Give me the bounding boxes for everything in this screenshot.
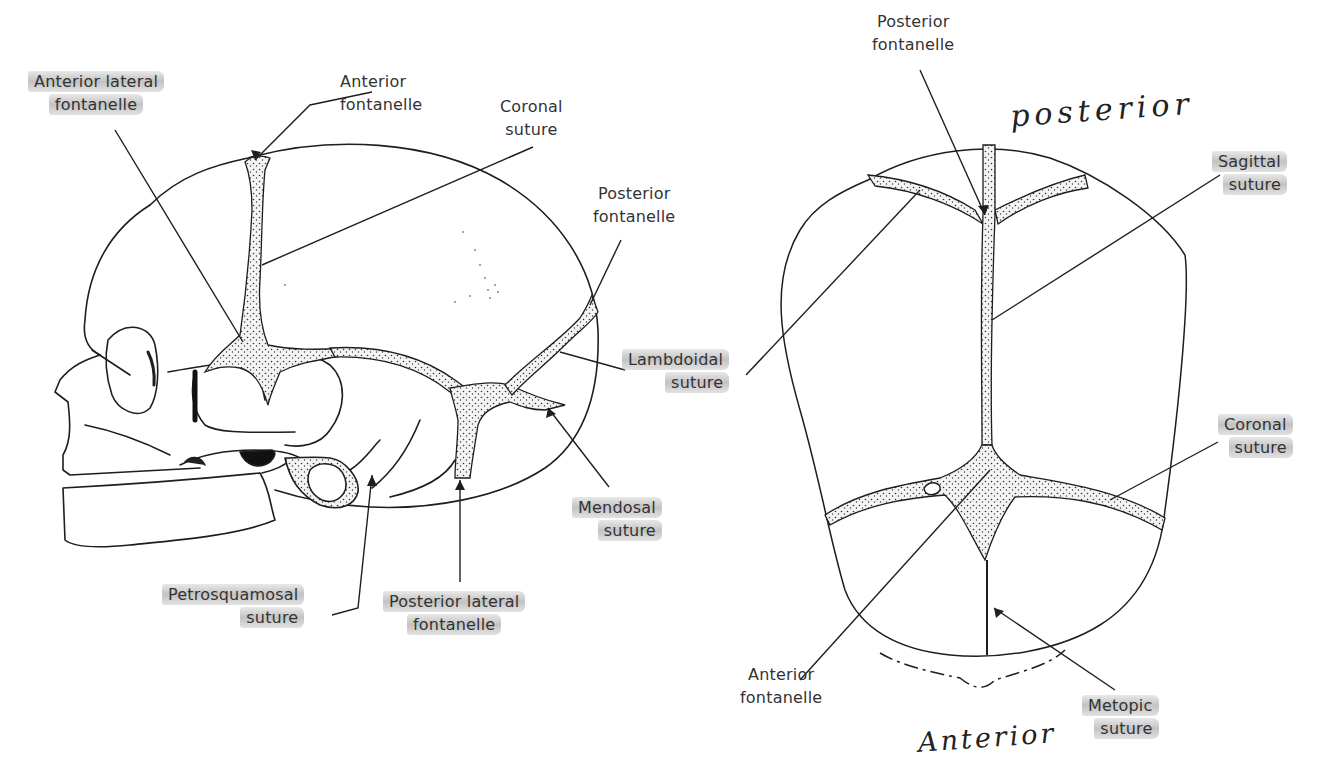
label-line: fontanelle <box>872 33 954 56</box>
label-line: suture <box>598 520 662 541</box>
label-line: suture <box>665 372 729 393</box>
label-line: suture <box>1094 718 1158 739</box>
label-mendosal-suture: Mendosal suture <box>572 496 662 542</box>
label-line: Posterior lateral <box>383 591 525 612</box>
label-line: fontanelle <box>49 94 143 115</box>
label-anterior-fontanelle-superior: Anterior fontanelle <box>740 663 822 709</box>
label-sagittal-suture: Sagittal suture <box>1212 150 1287 196</box>
label-line: Posterior <box>593 182 675 205</box>
label-posterior-lateral-fontanelle: Posterior lateral fontanelle <box>383 590 525 636</box>
label-line: fontanelle <box>340 93 422 116</box>
label-anterior-fontanelle-lateral: Anterior fontanelle <box>340 70 422 116</box>
label-line: Petrosquamosal <box>162 584 304 605</box>
label-anterior-lateral-fontanelle: Anterior lateral fontanelle <box>28 70 164 116</box>
label-line: fontanelle <box>407 614 501 635</box>
label-lambdoidal-suture-lateral: Lambdoidal suture <box>622 348 729 394</box>
label-line: Metopic <box>1082 695 1159 716</box>
lateral-arrowheads <box>251 150 556 490</box>
lateral-skull-view <box>55 144 598 547</box>
label-line: Posterior <box>872 10 954 33</box>
label-metopic-suture: Metopic suture <box>1082 694 1159 740</box>
label-line: fontanelle <box>740 686 822 709</box>
label-line: fontanelle <box>593 205 675 228</box>
label-line: Anterior <box>740 663 822 686</box>
label-line: suture <box>1223 174 1287 195</box>
label-posterior-fontanelle-lateral: Posterior fontanelle <box>593 182 675 228</box>
label-line: Anterior lateral <box>28 71 164 92</box>
label-coronal-suture-superior: Coronal suture <box>1218 413 1293 459</box>
label-line: Lambdoidal <box>622 349 729 370</box>
label-line: suture <box>500 118 563 141</box>
label-line: Sagittal <box>1212 151 1287 172</box>
label-line: Coronal <box>500 95 563 118</box>
label-line: Anterior <box>340 70 422 93</box>
label-line: Mendosal <box>572 497 662 518</box>
label-coronal-suture-lateral: Coronal suture <box>500 95 563 141</box>
label-line: suture <box>240 607 304 628</box>
label-petrosquamosal-suture: Petrosquamosal suture <box>162 583 304 629</box>
label-line: suture <box>1229 437 1293 458</box>
label-posterior-fontanelle-superior: Posterior fontanelle <box>872 10 954 56</box>
label-line: Coronal <box>1218 414 1293 435</box>
